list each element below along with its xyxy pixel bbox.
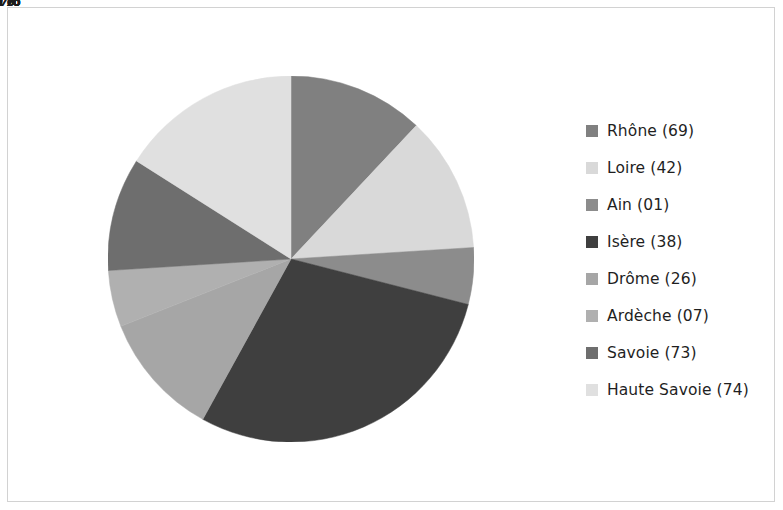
legend-item-label: Drôme (26) [607,270,697,288]
legend-color-swatch-icon [586,347,598,359]
legend-item[interactable]: Drôme (26) [586,260,776,297]
legend-item[interactable]: Ain (01) [586,186,776,223]
legend-item[interactable]: Haute Savoie (74) [586,371,776,408]
chart-screenshot: 12%12%5%29%11%5%10%16% Rhône (69)Loire (… [0,0,783,510]
legend-item-label: Loire (42) [607,159,682,177]
legend-color-swatch-icon [586,162,598,174]
legend-item[interactable]: Rhône (69) [586,112,776,149]
legend-item[interactable]: Savoie (73) [586,334,776,371]
legend-color-swatch-icon [586,310,598,322]
legend-item-label: Haute Savoie (74) [607,381,749,399]
legend-item-label: Isère (38) [607,233,683,251]
legend-color-swatch-icon [586,273,598,285]
legend-color-swatch-icon [586,236,598,248]
legend-item[interactable]: Ardèche (07) [586,297,776,334]
legend-item-label: Ain (01) [607,196,669,214]
legend-color-swatch-icon [586,125,598,137]
legend-item[interactable]: Loire (42) [586,149,776,186]
pie-chart-svg [108,76,474,442]
legend-color-swatch-icon [586,384,598,396]
legend-color-swatch-icon [586,199,598,211]
legend-item-label: Rhône (69) [607,122,694,140]
pie-slice-group [108,76,474,442]
chart-legend: Rhône (69)Loire (42)Ain (01)Isère (38)Dr… [586,112,776,408]
pie-data-label: 16% [0,0,21,10]
legend-item-label: Savoie (73) [607,344,697,362]
legend-item-label: Ardèche (07) [607,307,709,325]
legend-item[interactable]: Isère (38) [586,223,776,260]
